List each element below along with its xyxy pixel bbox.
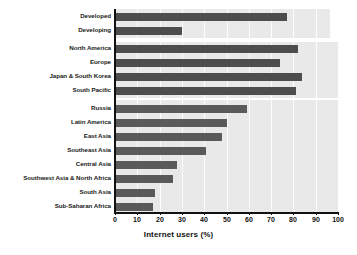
bar-developed: [115, 13, 287, 21]
bar-japan-south-korea: [115, 73, 302, 81]
bar-southeast-asia: [115, 147, 206, 155]
y-axis-line: [114, 9, 116, 212]
x-tick-mark-70: [271, 212, 272, 215]
category-label-south-pacific: South Pacific: [72, 86, 111, 94]
gridline-70: [271, 9, 272, 212]
category-label-japan-south-korea: Japan & South Korea: [49, 72, 111, 80]
category-axis-labels: Developed Developing North America Europ…: [0, 0, 114, 212]
category-label-southwest-asia-north-africa: Southwest Asia & North Africa: [23, 174, 111, 182]
category-label-north-america: North America: [69, 44, 111, 52]
internet-users-bar-chart: Developed Developing North America Europ…: [0, 0, 357, 255]
bar-developing: [115, 27, 182, 35]
x-tick-mark-40: [204, 212, 205, 215]
category-label-southeast-asia: Southeast Asia: [67, 146, 111, 154]
x-axis-title: Internet users (%): [0, 230, 357, 239]
gridline-80: [293, 9, 294, 212]
x-tick-mark-90: [316, 212, 317, 215]
category-label-central-asia: Central Asia: [76, 160, 111, 168]
x-tick-label-60: 60: [240, 216, 258, 223]
bar-south-asia: [115, 189, 155, 197]
x-tick-mark-60: [249, 212, 250, 215]
category-label-sub-saharan-africa: Sub-Saharan Africa: [55, 202, 111, 210]
category-label-east-asia: East Asia: [84, 132, 111, 140]
category-label-europe: Europe: [90, 58, 111, 66]
x-tick-label-40: 40: [195, 216, 213, 223]
bar-east-asia: [115, 133, 222, 141]
plot-area: [115, 9, 338, 212]
x-tick-label-0: 0: [106, 216, 124, 223]
bar-latin-america: [115, 119, 227, 127]
bar-southwest-asia-north-africa: [115, 175, 173, 183]
x-tick-mark-0: [115, 212, 116, 215]
x-tick-mark-10: [137, 212, 138, 215]
x-tick-label-10: 10: [128, 216, 146, 223]
bar-sub-saharan-africa: [115, 203, 153, 211]
category-label-russia: Russia: [91, 104, 111, 112]
x-tick-label-70: 70: [262, 216, 280, 223]
category-label-latin-america: Latin America: [71, 118, 111, 126]
x-tick-mark-80: [293, 212, 294, 215]
category-label-developing: Developing: [78, 26, 111, 34]
bar-north-america: [115, 45, 298, 53]
bar-europe: [115, 59, 280, 67]
x-tick-label-80: 80: [284, 216, 302, 223]
gridline-60: [249, 9, 250, 212]
x-tick-mark-50: [227, 212, 228, 215]
x-tick-mark-100: [338, 212, 339, 215]
bar-russia: [115, 105, 247, 113]
x-tick-label-100: 100: [329, 216, 347, 223]
gridline-90: [316, 9, 317, 212]
category-label-south-asia: South Asia: [79, 188, 111, 196]
category-label-developed: Developed: [80, 12, 111, 20]
x-tick-label-50: 50: [218, 216, 236, 223]
x-tick-mark-20: [160, 212, 161, 215]
bar-south-pacific: [115, 87, 296, 95]
bar-central-asia: [115, 161, 177, 169]
x-tick-label-90: 90: [307, 216, 325, 223]
x-tick-label-20: 20: [151, 216, 169, 223]
x-tick-mark-30: [182, 212, 183, 215]
x-tick-label-30: 30: [173, 216, 191, 223]
